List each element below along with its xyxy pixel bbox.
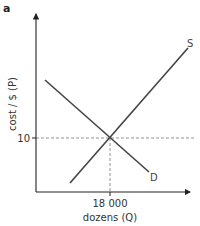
x-axis-label: dozens (Q)	[83, 212, 137, 223]
y-tick-label: 10	[17, 133, 30, 144]
supply-demand-chart: a S D 10 18 000 dozens (Q) cost / $ (P)	[0, 0, 200, 226]
x-tick-label: 18 000	[93, 198, 128, 209]
y-axis-label: cost / $ (P)	[7, 77, 18, 131]
demand-curve	[45, 80, 149, 172]
supply-curve	[70, 48, 188, 183]
demand-label: D	[150, 172, 158, 183]
panel-label: a	[3, 2, 10, 15]
supply-label: S	[187, 38, 193, 49]
